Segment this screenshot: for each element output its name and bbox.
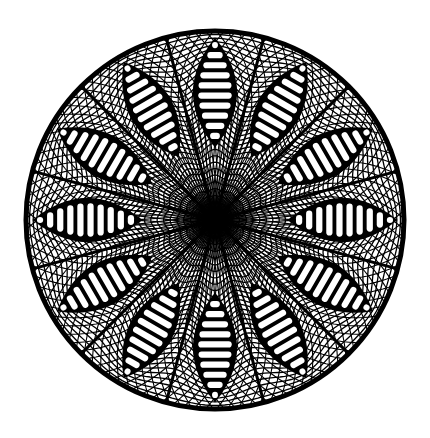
mandala-drawing: Black and white geometric string-art man… bbox=[0, 0, 430, 438]
center-hub bbox=[203, 208, 227, 232]
mandala-svg bbox=[0, 0, 430, 438]
